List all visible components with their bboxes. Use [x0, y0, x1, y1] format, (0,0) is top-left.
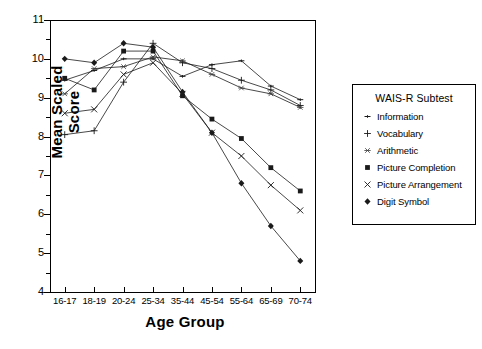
legend-entries: InformationVocabularyArithmeticPicture C… [353, 108, 475, 210]
y-tick-minor [46, 156, 50, 157]
x-tick [124, 287, 125, 293]
x-tick [271, 287, 272, 293]
dash-marker-icon [360, 109, 375, 124]
legend-entry-label: Vocabulary [377, 129, 423, 139]
y-tick-label: 7 [8, 169, 44, 180]
y-tick [44, 59, 50, 60]
x-tick [300, 287, 301, 293]
legend-entry-vocabulary: Vocabulary [353, 125, 475, 142]
y-tick [44, 253, 50, 254]
y-tick-label: 8 [8, 131, 44, 142]
y-axis-line [50, 20, 51, 293]
y-tick-label: 10 [8, 53, 44, 64]
y-tick-minor [46, 117, 50, 118]
legend-entry-picture-arrangement: Picture Arrangement [353, 176, 475, 193]
x-axis-title: Age Group [60, 313, 310, 330]
y-tick [44, 98, 50, 99]
legend-entry-label: Digit Symbol [377, 197, 429, 207]
series-digit-symbol [62, 40, 304, 264]
plus-marker-icon [360, 126, 375, 141]
legend-title: WAIS-R Subtest [353, 92, 475, 104]
y-tick-minor [46, 39, 50, 40]
legend-entry-information: Information [353, 108, 475, 125]
cross-marker-icon [360, 177, 375, 192]
y-tick-label: 11 [8, 14, 44, 25]
y-tick-minor [46, 234, 50, 235]
square-marker-icon [360, 160, 375, 175]
y-tick [44, 175, 50, 176]
series-information [62, 58, 304, 101]
legend-entry-label: Picture Completion [377, 163, 455, 173]
y-tick [44, 214, 50, 215]
legend-box: WAIS-R Subtest InformationVocabularyArit… [352, 84, 476, 225]
y-tick-minor [46, 78, 50, 79]
chart-figure: Mean Scaled Score 4567891011 16-1718-192… [0, 0, 482, 349]
legend-entry-label: Information [377, 112, 423, 122]
y-tick-minor [46, 195, 50, 196]
diamond-marker-icon [360, 194, 375, 209]
series-vocabulary [61, 40, 303, 138]
legend-entry-arithmetic: Arithmetic [353, 142, 475, 159]
y-tick-label: 6 [8, 208, 44, 219]
legend-entry-label: Arithmetic [377, 146, 418, 156]
y-tick-minor [46, 273, 50, 274]
y-axis-title: Mean Scaled Score [48, 42, 82, 182]
legend-entry-label: Picture Arrangement [377, 180, 462, 190]
y-tick-label: 5 [8, 247, 44, 258]
star-marker-icon [360, 143, 375, 158]
x-tick [94, 287, 95, 293]
x-tick [183, 287, 184, 293]
plot-top-edge [50, 20, 316, 21]
series-picture-arrangement [62, 60, 304, 214]
series-arithmetic [62, 55, 304, 110]
y-tick-label: 9 [8, 92, 44, 103]
x-tick [241, 287, 242, 293]
x-tick [212, 287, 213, 293]
legend-entry-picture-completion: Picture Completion [353, 159, 475, 176]
x-tick [65, 287, 66, 293]
y-tick [44, 292, 50, 293]
x-tick [153, 287, 154, 293]
y-tick [44, 20, 50, 21]
plot-right-edge [315, 20, 316, 293]
legend-entry-digit-symbol: Digit Symbol [353, 193, 475, 210]
y-tick [44, 137, 50, 138]
x-tick-label: 70-74 [274, 296, 326, 306]
series-picture-completion [62, 49, 302, 194]
